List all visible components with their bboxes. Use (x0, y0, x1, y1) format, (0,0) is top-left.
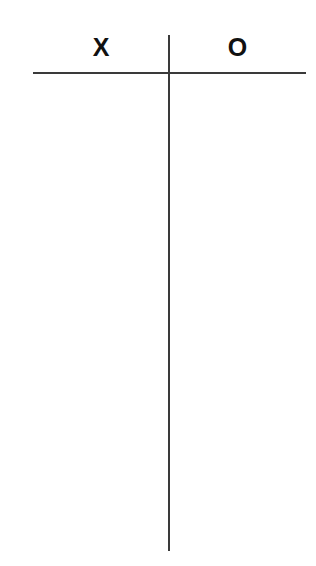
column-header-o: O (169, 34, 306, 60)
column-body-o (170, 74, 306, 551)
column-body-x (33, 74, 168, 551)
column-header-x: X (33, 34, 169, 60)
t-chart: X O (0, 0, 316, 566)
